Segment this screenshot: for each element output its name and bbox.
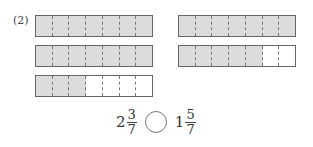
shaded-part [246, 46, 263, 66]
denominator: 7 [186, 123, 194, 137]
unshaded-part [86, 76, 103, 96]
unshaded-part [103, 76, 120, 96]
fraction-bar-left-2 [35, 45, 153, 67]
shaded-part [69, 46, 86, 66]
shaded-part [136, 16, 152, 36]
shaded-part [36, 76, 53, 96]
whole-part: 1 [175, 113, 185, 131]
comparison-expression: 2 3 7 1 5 7 [116, 104, 196, 140]
shaded-part [136, 46, 152, 66]
shaded-part [212, 46, 229, 66]
shaded-part [86, 46, 103, 66]
mixed-number-left: 2 3 7 [116, 108, 137, 137]
fraction-bar-left-1 [35, 15, 153, 37]
fraction-bar-right-1 [178, 15, 296, 37]
shaded-part [53, 76, 70, 96]
shaded-part [179, 16, 196, 36]
shaded-part [229, 16, 246, 36]
unshaded-part [120, 76, 137, 96]
shaded-part [53, 16, 70, 36]
shaded-part [120, 16, 137, 36]
shaded-part [69, 76, 86, 96]
unshaded-part [136, 76, 152, 96]
shaded-part [196, 16, 213, 36]
shaded-part [69, 16, 86, 36]
unshaded-part [263, 46, 280, 66]
problem-label: (2) [13, 14, 29, 27]
numerator: 5 [185, 108, 195, 123]
shaded-part [179, 46, 196, 66]
shaded-part [212, 16, 229, 36]
shaded-part [53, 46, 70, 66]
shaded-part [103, 46, 120, 66]
denominator: 7 [128, 123, 136, 137]
fraction: 5 7 [185, 108, 195, 137]
fraction: 3 7 [127, 108, 137, 137]
shaded-part [196, 46, 213, 66]
shaded-part [279, 16, 295, 36]
numerator: 3 [127, 108, 137, 123]
shaded-part [103, 16, 120, 36]
shaded-part [263, 16, 280, 36]
fraction-bar-left-3 [35, 75, 153, 97]
shaded-part [36, 46, 53, 66]
whole-part: 2 [116, 113, 126, 131]
mixed-number-right: 1 5 7 [175, 108, 196, 137]
fraction-bar-right-2 [178, 45, 296, 67]
shaded-part [229, 46, 246, 66]
comparison-answer-circle[interactable] [145, 111, 167, 133]
shaded-part [246, 16, 263, 36]
shaded-part [86, 16, 103, 36]
shaded-part [36, 16, 53, 36]
unshaded-part [279, 46, 295, 66]
shaded-part [120, 46, 137, 66]
